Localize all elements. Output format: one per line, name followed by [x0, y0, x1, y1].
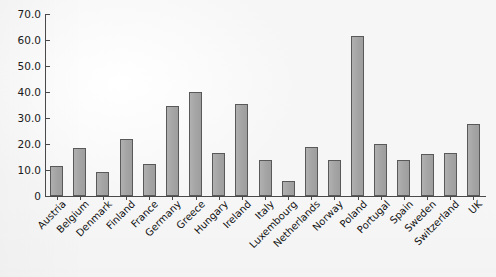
bar: [189, 92, 202, 196]
bar-fill: [121, 140, 132, 195]
y-tick-label: 70.0: [18, 9, 41, 20]
bar: [421, 154, 434, 196]
bar: [120, 139, 133, 196]
bar-fill: [468, 125, 479, 195]
bar: [328, 160, 341, 196]
x-tick-label-text: UK: [468, 199, 485, 216]
bar-fill: [190, 93, 201, 195]
bar-fill: [51, 167, 62, 195]
y-tick-label: 20.0: [18, 139, 41, 150]
y-tick-label: 30.0: [18, 113, 41, 124]
bar: [351, 36, 364, 196]
bar: [467, 124, 480, 196]
bar-fill: [213, 154, 224, 195]
bar-fill: [398, 161, 409, 195]
y-tick-label: 10.0: [18, 165, 41, 176]
bar: [397, 160, 410, 196]
y-tick-mark: 0: [45, 196, 50, 197]
bar: [444, 153, 457, 196]
y-tick-label: 0: [34, 191, 41, 202]
bar-fill: [329, 161, 340, 195]
bar: [374, 144, 387, 196]
bar: [305, 147, 318, 196]
bar-fill: [375, 145, 386, 195]
bar: [143, 164, 156, 196]
bar-fill: [74, 149, 85, 195]
bar: [50, 166, 63, 196]
bar-fill: [236, 105, 247, 195]
bar: [96, 172, 109, 196]
bar: [235, 104, 248, 196]
bar-fill: [422, 155, 433, 195]
bar-fill: [97, 173, 108, 195]
bar: [282, 181, 295, 196]
bar-fill: [167, 107, 178, 195]
plot-area: [45, 14, 485, 196]
bar-fill: [306, 148, 317, 195]
bar-fill: [260, 161, 271, 195]
bar: [73, 148, 86, 196]
bar-chart-figure: 010.020.030.040.050.060.070.0 AustriaBel…: [0, 0, 496, 277]
y-tick-label: 40.0: [18, 87, 41, 98]
bar-fill: [352, 37, 363, 195]
y-tick-label: 60.0: [18, 35, 41, 46]
bar-fill: [445, 154, 456, 195]
y-tick-label: 50.0: [18, 61, 41, 72]
bar: [259, 160, 272, 196]
bar: [212, 153, 225, 196]
bar-fill: [283, 182, 294, 195]
x-tick-label: UK: [468, 199, 485, 216]
bar: [166, 106, 179, 196]
bar-fill: [144, 165, 155, 195]
